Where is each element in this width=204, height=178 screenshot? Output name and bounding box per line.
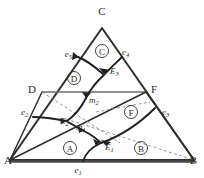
label-e3: e3: [162, 107, 170, 118]
label-E1: E1: [104, 142, 114, 153]
label-m2-sub: 2: [96, 99, 100, 106]
vertex-label-D: D: [28, 83, 36, 95]
label-e4: e4: [122, 47, 130, 58]
label-E2: E2: [59, 116, 70, 127]
label-e3-sub: 3: [165, 111, 170, 118]
join-line-B-F: [146, 92, 194, 160]
join-line-A-D: [10, 92, 42, 160]
vertex-label-F: F: [151, 83, 157, 95]
curve-e5-E3: [78, 57, 103, 74]
dashed-line-D-E1: [42, 92, 120, 143]
curve-E2-m2: [67, 98, 86, 121]
vertex-label-B: B: [190, 154, 197, 166]
field-label-C: C: [99, 47, 105, 57]
label-E3-sub: 3: [115, 70, 120, 77]
field-label-A: A: [67, 144, 74, 154]
ternary-phase-diagram: A B C D F A B C D F E1 E2 E3 m1 m2: [0, 0, 204, 178]
curve-e1-E1: [83, 143, 101, 161]
label-E3: E3: [109, 66, 120, 77]
label-E1-sub: 1: [111, 146, 114, 153]
label-e4-sub: 4: [126, 51, 130, 58]
label-e1: e1: [74, 165, 81, 176]
label-e1-sub: 1: [78, 169, 81, 176]
label-m1-sub: 1: [83, 126, 86, 133]
label-m2: m2: [89, 95, 100, 106]
field-label-F: F: [128, 108, 133, 118]
field-label-D: D: [71, 74, 78, 84]
primary-phase-fields: A B C D F: [64, 45, 148, 155]
field-label-B: B: [138, 144, 144, 154]
label-e2: e2: [21, 107, 29, 118]
vertex-label-A: A: [4, 154, 12, 166]
internal-joins: [10, 92, 194, 160]
label-e5: e5: [65, 49, 73, 60]
label-e2-sub: 2: [25, 111, 29, 118]
vertex-label-C: C: [98, 5, 105, 17]
phase-diagram-canvas: A B C D F A B C D F E1 E2 E3 m1 m2: [0, 0, 204, 178]
arrow-from-e5: [72, 52, 79, 60]
curve-E1-m1: [84, 131, 101, 143]
